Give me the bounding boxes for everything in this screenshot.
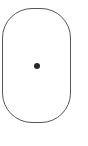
center-dot-icon [34, 63, 40, 69]
